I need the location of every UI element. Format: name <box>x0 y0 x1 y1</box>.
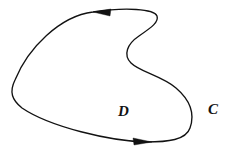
figure-background <box>0 0 233 153</box>
region-label-D: D <box>118 104 129 119</box>
curve-label-C: C <box>208 102 218 117</box>
figure-container: D C <box>0 0 233 153</box>
closed-curve-diagram <box>0 0 233 153</box>
